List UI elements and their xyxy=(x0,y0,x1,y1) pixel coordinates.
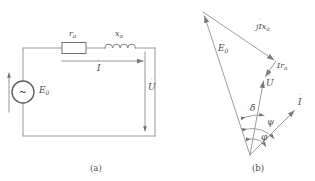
emf-dot: ˙ xyxy=(41,82,45,89)
voltage-dot: ˙ xyxy=(150,79,154,86)
circuit-diagram xyxy=(9,43,155,137)
inductor-label-sub: a xyxy=(120,32,124,39)
caption-b: (b) xyxy=(252,163,264,173)
resistor-label-sub: a xyxy=(73,32,77,39)
emf-label-sub: 0 xyxy=(46,89,50,96)
phasor-Ira-dot: ˙ xyxy=(277,58,281,65)
phasor-jIxa-sub: a xyxy=(266,25,270,32)
current-label: ˙I xyxy=(97,64,101,73)
caption-a: (a) xyxy=(90,163,102,173)
inductor-symbol xyxy=(105,44,135,48)
angle-arc-delta xyxy=(246,115,265,117)
phasor-label-U: ˙U xyxy=(266,79,274,88)
inductor-label-base: x xyxy=(115,29,120,38)
inductor-label: xa xyxy=(115,30,123,38)
phasor-E0-dot: ˙ xyxy=(220,40,224,47)
ac-waveform-icon: ~ xyxy=(19,87,27,97)
voltage-label: ˙U xyxy=(148,83,156,92)
phasor-label-E0: ˙E 0 xyxy=(218,44,228,53)
phasor-diagram xyxy=(203,12,295,155)
angle-label-phi: φ xyxy=(261,133,267,142)
phasor-E0 xyxy=(205,16,251,155)
angle-label-delta: δ xyxy=(250,104,255,113)
phasor-jIxa-dot: ˙ xyxy=(258,19,262,26)
phasor-label-jIxa: j ˙I xa xyxy=(256,23,270,31)
figure-stage: ra xa ˙I ~ ˙E 0 ˙U (a) ˙E 0 j ˙I xa xyxy=(0,0,315,181)
emf-label: ˙E 0 xyxy=(39,86,49,95)
phasor-E0-sub: 0 xyxy=(225,47,229,54)
resistor-symbol xyxy=(62,43,86,54)
phasor-Ira-sub: a xyxy=(284,64,288,71)
angle-label-psi: ψ xyxy=(267,118,274,127)
phasor-U-dot: ˙ xyxy=(268,75,272,82)
phasor-jIxa xyxy=(203,12,274,60)
resistor-label: ra xyxy=(69,30,76,38)
phasor-label-Ira: ˙I ra xyxy=(277,62,288,70)
current-dot: ˙ xyxy=(97,60,101,67)
phasor-I-dot: ˙ xyxy=(298,94,302,101)
phasor-label-I: ˙I xyxy=(298,98,302,107)
